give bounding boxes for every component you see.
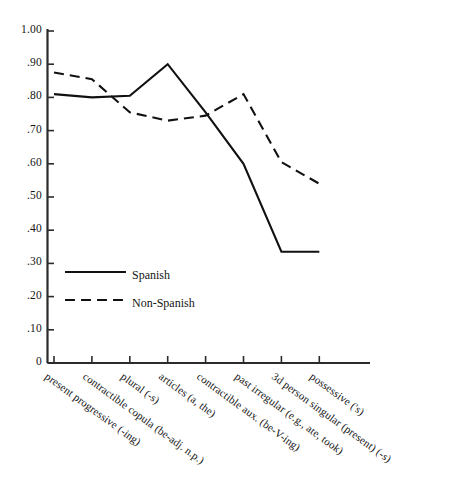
- y-tick-label: 1.00: [2, 23, 42, 35]
- chart-figure: 1.00.90.80.70.60.50.40.30.20.100 present…: [0, 0, 453, 481]
- y-tick-label: .10: [2, 322, 42, 334]
- legend-label-spanish: Spanish: [132, 268, 170, 283]
- y-tick-label: .80: [2, 89, 42, 101]
- y-tick-label: .40: [2, 222, 42, 234]
- y-tick-label: .70: [2, 123, 42, 135]
- legend-label-non-spanish: Non-Spanish: [132, 296, 195, 311]
- y-tick-label: .30: [2, 255, 42, 267]
- y-tick-label: .60: [2, 156, 42, 168]
- y-tick-label: .50: [2, 189, 42, 201]
- line-chart-plot: [0, 0, 453, 481]
- y-tick-label: .20: [2, 289, 42, 301]
- y-tick-label: .90: [2, 56, 42, 68]
- y-tick-label: 0: [2, 355, 42, 367]
